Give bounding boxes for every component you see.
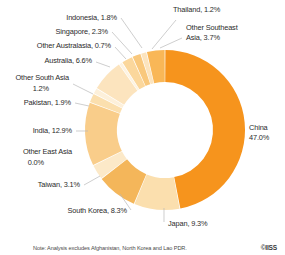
leader-line-indonesia	[121, 18, 142, 48]
slice-label-taiwan: Taiwan, 3.1%	[38, 180, 81, 189]
chart-note: Note: Analysis excludes Afghanistan, Nor…	[33, 245, 187, 251]
slice-label-china-line2: 47.0%	[249, 133, 270, 142]
leader-line-taiwan	[84, 176, 100, 185]
slice-label-japan: Japan, 9.3%	[168, 219, 208, 228]
donut-chart-figure: China, 47.0%Japan, 9.3%South Korea, 8.3%…	[0, 0, 285, 255]
leader-line-pakistan	[75, 103, 89, 106]
slice-label-australia: Australia, 6.6%	[45, 56, 93, 65]
slice-label-singapore: Singapore, 2.3%	[56, 27, 109, 36]
slice-label-other-southeast-asia-line2: Asia, 3.7%	[186, 33, 220, 42]
slice-label-pakistan: Pakistan, 1.9%	[24, 98, 72, 107]
slice-label-other-south-asia-line1: Other South Asia	[16, 73, 71, 82]
slice-label-south-korea: South Korea, 8.3%	[68, 206, 128, 215]
slice-label-india: India, 12.9%	[33, 126, 73, 135]
slice-label-other-east-asia-line2: 0.0%	[28, 158, 45, 167]
slice-label-thailand: Thailand, 1.2%	[173, 5, 221, 14]
leader-line-australia	[96, 62, 110, 67]
copyright-credit: ©IISS	[261, 244, 277, 251]
leader-line-thailand	[152, 20, 176, 49]
slice-label-other-southeast-asia-line1: Other Southeast	[186, 23, 238, 32]
slice-label-other-south-asia-line2: 1.2%	[33, 84, 50, 93]
slice-label-other-australasia: Other Australasia, 0.7%	[37, 41, 112, 50]
leader-line-singapore	[112, 32, 132, 54]
slice-label-other-east-asia-line1: Other East Asia	[23, 147, 73, 156]
leader-line-other-south-asia	[73, 84, 93, 94]
donut-chart-svg: China, 47.0%Japan, 9.3%South Korea, 8.3%…	[0, 0, 285, 255]
donut-slice-china[interactable]: China, 47.0%	[165, 50, 245, 209]
leader-line-other-southeast	[160, 38, 182, 48]
slice-label-indonesia: Indonesia, 1.8%	[66, 13, 117, 22]
leader-line-other-australasia	[115, 47, 126, 59]
donut-slices-group: China, 47.0%Japan, 9.3%South Korea, 8.3%…	[85, 50, 245, 210]
slice-label-china-line1: China	[249, 123, 269, 132]
chart-footer: Note: Analysis excludes Afghanistan, Nor…	[0, 244, 285, 251]
